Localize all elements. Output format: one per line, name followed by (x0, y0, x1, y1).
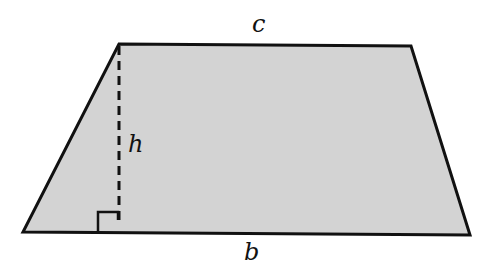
label-h: h (128, 132, 143, 156)
trapezoid-shape (23, 44, 470, 235)
label-b: b (244, 240, 259, 264)
trapezoid-figure (0, 0, 486, 277)
label-c: c (252, 12, 265, 36)
trapezoid-diagram: c h b (0, 0, 486, 277)
